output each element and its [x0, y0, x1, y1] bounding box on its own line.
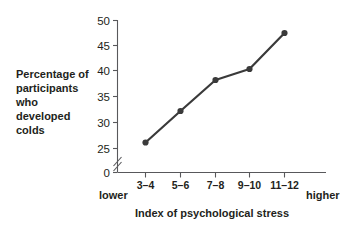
x-axis-title: Index of psychological stress — [135, 207, 289, 219]
data-point — [281, 30, 287, 36]
series-data-points — [142, 30, 287, 146]
y-axis-label-line: Percentage of — [16, 68, 89, 80]
y-axis-label-line: developed — [16, 110, 70, 122]
x-axis-anchor-high: higher — [306, 189, 340, 201]
chart-canvas: Percentage of participants who developed… — [0, 0, 347, 225]
data-point — [177, 108, 183, 114]
chart-figure: Percentage of participants who developed… — [0, 0, 347, 225]
y-tick-label: 0 — [104, 167, 110, 179]
series-line-colds — [146, 33, 285, 143]
data-point — [246, 66, 252, 72]
y-tick-label: 35 — [97, 91, 110, 103]
x-tick-label: 5–6 — [172, 179, 190, 191]
y-tick-label: 50 — [97, 15, 110, 27]
x-axis-ticks — [146, 173, 285, 178]
y-tick-label: 45 — [97, 40, 110, 52]
y-axis-label-line: who — [15, 96, 38, 108]
x-axis-anchor-low: lower — [99, 189, 128, 201]
y-axis-ticks — [113, 21, 118, 173]
x-axis-tick-labels: 3–4 5–6 7–8 9–10 11–12 — [137, 179, 299, 191]
y-axis-label-line: participants — [16, 82, 78, 94]
y-tick-label: 30 — [97, 117, 110, 129]
x-tick-label: 7–8 — [207, 179, 225, 191]
data-point — [212, 77, 218, 83]
y-tick-label: 25 — [97, 143, 110, 155]
y-axis-label-line: colds — [16, 124, 45, 136]
data-point — [142, 139, 148, 145]
y-axis-label: Percentage of participants who developed… — [15, 68, 89, 136]
x-tick-label: 3–4 — [137, 179, 155, 191]
y-axis-tick-labels: 50 45 40 35 30 25 0 — [97, 15, 110, 179]
x-tick-label: 9–10 — [238, 179, 262, 191]
x-tick-label: 11–12 — [270, 179, 299, 191]
y-tick-label: 40 — [97, 65, 110, 77]
